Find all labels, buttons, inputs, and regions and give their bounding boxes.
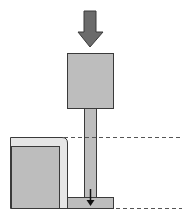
rod: [85, 109, 97, 198]
left-block: [12, 147, 60, 209]
press-diagram: [0, 0, 193, 218]
upper-block: [68, 54, 114, 109]
force-arrow-icon: [78, 11, 103, 47]
